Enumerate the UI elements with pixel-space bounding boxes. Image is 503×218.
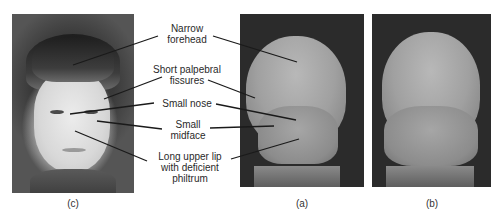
sem-panel-b [372,14,491,187]
embryo-neck [386,166,474,187]
sem-panel-a [240,14,364,187]
embryo-neck [254,166,340,187]
collar [30,169,116,193]
caption-a: (a) [287,198,317,209]
embryo-midface [384,106,478,166]
left-eye [50,110,64,114]
caption-b: (b) [417,198,447,209]
label-line: Narrow [162,23,212,34]
label-long-upper-lip: Long upper lip with deficient philtrum [150,151,230,184]
label-short-palpebral-fissures: Short palpebral fissures [150,64,224,86]
caption-c: (c) [58,198,88,209]
label-line: with deficient [150,162,230,173]
right-eye [84,110,98,114]
label-small-midface: Small midface [166,119,210,141]
label-narrow-forehead: Narrow forehead [162,23,212,45]
face [34,72,110,172]
label-line: forehead [162,34,212,45]
label-line: midface [166,130,210,141]
label-line: Short palpebral [150,64,224,75]
mouth [62,148,86,152]
label-line: philtrum [150,173,230,184]
child-photo-panel [12,14,134,193]
label-small-nose: Small nose [158,98,216,109]
label-line: Small nose [158,98,216,109]
label-line: Long upper lip [150,151,230,162]
label-line: Small [166,119,210,130]
label-line: fissures [150,75,224,86]
embryo-midface [258,106,338,164]
hair-fringe [32,36,114,82]
